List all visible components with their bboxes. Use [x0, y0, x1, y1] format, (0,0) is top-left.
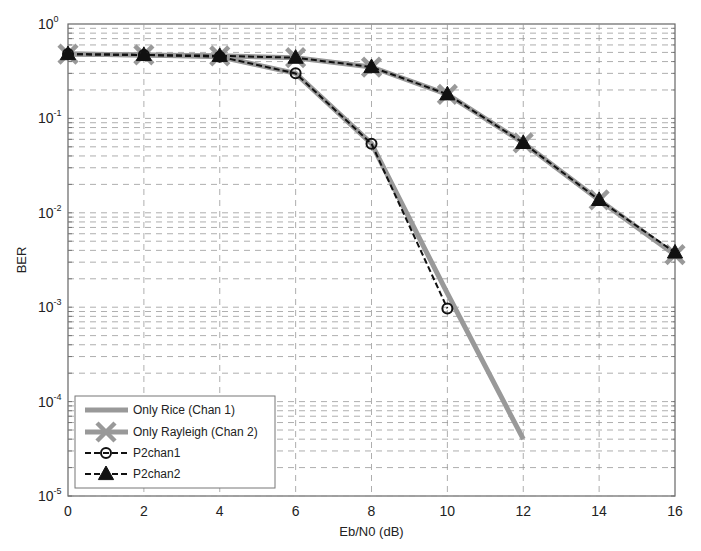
- y-tick-label: 10-2: [38, 203, 62, 221]
- x-axis-title: Eb/N0 (dB): [339, 524, 403, 539]
- y-axis-title: BER: [14, 247, 29, 274]
- legend-entry: P2chan1: [133, 446, 181, 460]
- legend: Only Rice (Chan 1)Only Rayleigh (Chan 2)…: [75, 396, 275, 488]
- legend-entry: Only Rayleigh (Chan 2): [133, 425, 258, 439]
- legend-entry: P2chan2: [133, 467, 181, 481]
- ber-chart: 024681012141610010-110-210-310-410-5Eb/N…: [0, 0, 701, 551]
- x-tick-label: 8: [368, 503, 376, 519]
- x-tick-label: 12: [515, 503, 531, 519]
- x-tick-label: 16: [667, 503, 683, 519]
- legend-entry: Only Rice (Chan 1): [133, 403, 235, 417]
- y-tick-label: 10-4: [38, 392, 62, 410]
- x-tick-label: 4: [216, 503, 224, 519]
- y-tick-label: 100: [38, 14, 59, 32]
- y-tick-label: 10-5: [38, 486, 62, 504]
- x-tick-label: 2: [140, 503, 148, 519]
- y-tick-label: 10-1: [38, 108, 62, 126]
- x-tick-label: 14: [591, 503, 607, 519]
- x-tick-label: 10: [440, 503, 456, 519]
- x-tick-label: 0: [64, 503, 72, 519]
- y-tick-label: 10-3: [38, 297, 62, 315]
- x-tick-label: 6: [292, 503, 300, 519]
